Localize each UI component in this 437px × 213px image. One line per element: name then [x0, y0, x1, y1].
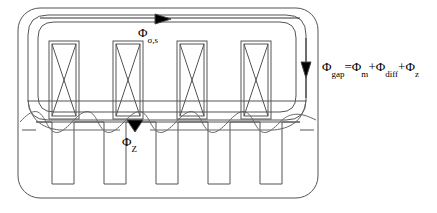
- flux-path-diagram: [0, 0, 437, 213]
- stator-coil-4: [241, 41, 271, 119]
- tooth-flux-label: ΦZ: [122, 133, 137, 152]
- outer-machine-boundary: [18, 8, 318, 198]
- stator-coil-3: [177, 41, 207, 119]
- phi-symbol: Φ: [138, 25, 148, 40]
- eq-term-3-base: +Φ: [368, 59, 385, 74]
- tooth-flux-arrow: [127, 120, 143, 132]
- stator-leakage-flux-label: Φσ,s: [138, 24, 158, 43]
- eq-term-2-base: =Φ: [345, 59, 362, 74]
- figure-root: Φσ,s Φgap=Φm+Φdiff+Φz ΦZ: [0, 0, 437, 213]
- inner-leakage-flux-path: [38, 22, 296, 112]
- eq-term-4-base: +Φ: [398, 59, 415, 74]
- eq-term-1-base: Φ: [322, 59, 332, 74]
- phi-symbol: Φ: [122, 134, 132, 149]
- right-flux-transition-curve: [150, 100, 306, 130]
- airgap-flux-arrow: [301, 38, 311, 98]
- phi-subscript: Z: [132, 144, 138, 154]
- eq-term-1-sub: gap: [332, 69, 345, 79]
- eq-term-3-sub: diff: [385, 69, 398, 79]
- phi-subscript: σ,s: [148, 35, 159, 45]
- stator-coil-2: [113, 41, 143, 119]
- eq-term-4-sub: z: [415, 69, 419, 79]
- stator-coil-1: [49, 41, 79, 119]
- airgap-flux-equation-label: Φgap=Φm+Φdiff+Φz: [322, 58, 419, 77]
- eq-term-2-sub: m: [361, 69, 368, 79]
